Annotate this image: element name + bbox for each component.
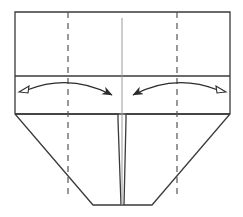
origami-figure: Origami fold step diagram Paper outline … [0,0,243,217]
origami-diagram: Origami fold step diagram Paper outline … [0,0,243,217]
